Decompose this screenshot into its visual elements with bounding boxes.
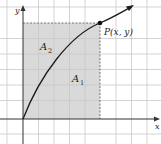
y-axis-arrow-icon [21, 5, 26, 11]
svg-text:A: A [39, 41, 47, 52]
shaded-region [23, 23, 100, 119]
svg-text:2: 2 [48, 47, 52, 55]
y-axis-label: y [14, 6, 20, 15]
x-axis-arrow-icon [154, 117, 160, 122]
point-label: P(x, y) [103, 27, 133, 37]
point-p [98, 21, 103, 26]
diagram-canvas: y x P(x, y) A 2 A 1 [0, 0, 161, 144]
curve-arrow-icon [126, 5, 134, 11]
x-axis-label: x [155, 122, 160, 131]
svg-text:A: A [71, 73, 79, 84]
svg-text:1: 1 [80, 79, 84, 87]
